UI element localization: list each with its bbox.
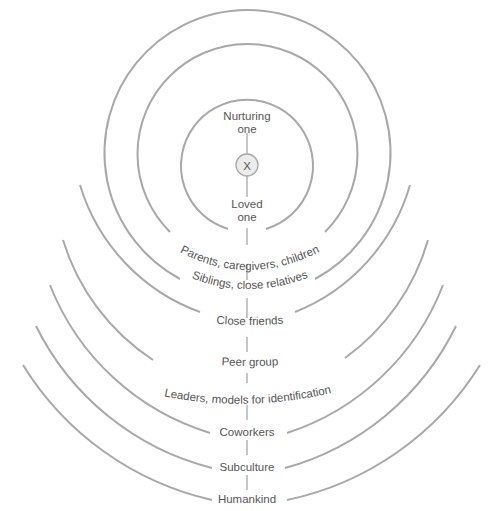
nurturing-label-2: one (237, 123, 256, 135)
ring-label-leaders: Leaders, models for identification (164, 383, 332, 406)
ring-label-close-friends: Close friends (216, 314, 284, 327)
ring-label-parents: Parents, caregivers, children (179, 243, 321, 272)
arc-8-right (287, 365, 480, 500)
social-circles-diagram: X Nurturing one Loved one Parents, careg… (0, 0, 494, 511)
arc-5-left (63, 240, 153, 360)
arc-8-left (23, 365, 212, 500)
ring-label-peer-group: Peer group (221, 355, 278, 368)
ring-label-subculture: Subculture (220, 461, 275, 473)
loved-label-2: one (237, 211, 256, 223)
center-label: X (243, 160, 251, 172)
nurturing-label-1: Nurturing (223, 110, 270, 122)
ring-label-humankind: Humankind (218, 493, 276, 505)
ring-label-coworkers: Coworkers (220, 426, 275, 438)
arc-5-right (345, 240, 428, 358)
arc-6-right (287, 285, 443, 433)
loved-label-1: Loved (231, 198, 262, 210)
